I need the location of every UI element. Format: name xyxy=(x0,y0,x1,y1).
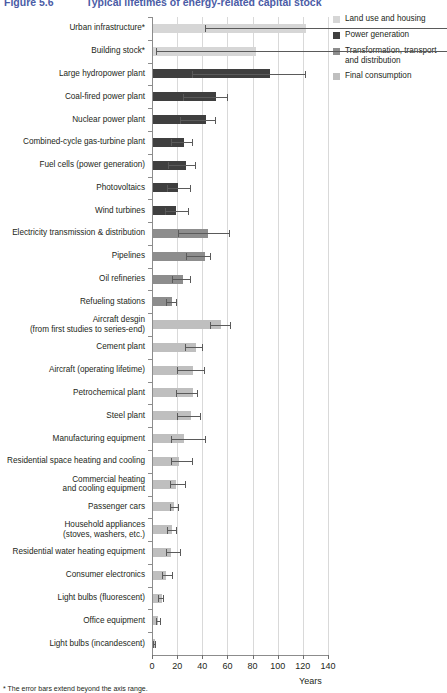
error-bar-cap-high xyxy=(305,71,306,78)
error-bar-cap-high xyxy=(188,208,189,215)
category-label: Light bulbs (fluorescent) xyxy=(0,593,145,603)
error-bar-cap-high xyxy=(210,253,211,260)
y-axis-tick xyxy=(148,17,152,18)
error-bar xyxy=(171,461,192,462)
error-bar-cap-low xyxy=(156,618,157,625)
legend-item-transformation: Transformation, transport and distributi… xyxy=(333,46,447,66)
y-axis-tick xyxy=(148,564,152,565)
category-label: Commercial heating and cooling equipment xyxy=(0,475,145,494)
error-bar-cap-low xyxy=(168,162,169,169)
x-axis-title: Years xyxy=(299,676,322,686)
error-bar-cap-low xyxy=(185,344,186,351)
x-axis-tick xyxy=(177,655,178,659)
error-bar-cap-low xyxy=(170,504,171,511)
error-bar xyxy=(170,484,185,485)
error-bar-cap-low xyxy=(178,230,179,237)
error-bar xyxy=(166,302,176,303)
y-axis-tick xyxy=(148,85,152,86)
error-bar-cap-low xyxy=(192,71,193,78)
error-bar-cap-low xyxy=(167,527,168,534)
error-bar-cap-low xyxy=(165,208,166,215)
category-label: Large hydropower plant xyxy=(0,69,145,79)
category-label: Residential water heating equipment xyxy=(0,547,145,557)
error-bar-cap-low xyxy=(156,48,157,55)
category-label: Cement plant xyxy=(0,342,145,352)
error-bar-cap-high xyxy=(178,504,179,511)
error-bar-cap-low xyxy=(170,481,171,488)
error-bar-cap-low xyxy=(166,299,167,306)
chart-plot-area xyxy=(152,17,328,655)
gridline xyxy=(253,17,254,655)
gridline xyxy=(303,17,304,655)
error-bar-cap-low xyxy=(171,139,172,146)
category-label: Steel plant xyxy=(0,411,145,421)
y-axis-tick xyxy=(148,541,152,542)
error-bar-cap-high xyxy=(160,618,161,625)
category-label: Aircraft (operating lifetime) xyxy=(0,365,145,375)
y-axis-tick xyxy=(148,518,152,519)
legend-swatch-land-use xyxy=(333,16,340,23)
x-axis-tick-label: 140 xyxy=(313,661,343,671)
x-axis-tick xyxy=(303,655,304,659)
y-axis-tick xyxy=(148,40,152,41)
category-label: Building stock* xyxy=(0,46,145,56)
y-axis-tick xyxy=(148,313,152,314)
error-bar-cap-low xyxy=(186,253,187,260)
error-bar-cap-low xyxy=(180,117,181,124)
category-label: Household appliances (stoves, washers, e… xyxy=(0,520,145,539)
error-bar-cap-high xyxy=(192,139,193,146)
category-label: Nuclear power plant xyxy=(0,115,145,125)
y-axis-tick xyxy=(148,473,152,474)
error-bar-cap-high xyxy=(215,117,216,124)
error-bar xyxy=(162,575,172,576)
gridline xyxy=(227,17,228,655)
error-bar xyxy=(171,439,205,440)
y-axis-tick xyxy=(148,222,152,223)
category-label: Residential space heating and cooling xyxy=(0,456,145,466)
y-axis-tick xyxy=(148,382,152,383)
y-axis-tick xyxy=(148,496,152,497)
y-axis-tick xyxy=(148,632,152,633)
category-label: Consumer electronics xyxy=(0,570,145,580)
error-bar-cap-high xyxy=(205,436,206,443)
category-label: Light bulbs (incandescent) xyxy=(0,639,145,649)
legend-label-land-use: Land use and housing xyxy=(345,14,447,24)
legend-item-final-consumption: Final consumption xyxy=(333,71,447,82)
category-label: Combined-cycle gas-turbine plant xyxy=(0,137,145,147)
error-bar-cap-high xyxy=(180,549,181,556)
x-axis-tick xyxy=(328,655,329,659)
y-axis-tick xyxy=(148,359,152,360)
error-bar xyxy=(183,97,227,98)
error-bar-cap-high xyxy=(229,230,230,237)
error-bar-cap-high xyxy=(172,572,173,579)
legend-label-power-generation: Power generation xyxy=(345,30,447,40)
x-axis-tick xyxy=(227,655,228,659)
error-bar-cap-high xyxy=(227,94,228,101)
error-bar xyxy=(185,347,203,348)
error-bar-cap-low xyxy=(171,436,172,443)
category-label: Electricity transmission & distribution xyxy=(0,228,145,238)
figure-number: Figure 5.6 xyxy=(4,0,54,8)
error-bar-cap-low xyxy=(205,25,206,32)
x-axis-line xyxy=(152,655,328,656)
error-bar-cap-low xyxy=(166,549,167,556)
chart-footnote: * The error bars extend beyond the axis … xyxy=(3,685,148,692)
y-axis-tick xyxy=(148,177,152,178)
x-axis-tick xyxy=(152,655,153,659)
error-bar-cap-low xyxy=(177,367,178,374)
error-bar-cap-high xyxy=(195,162,196,169)
category-label: Refueling stations xyxy=(0,297,145,307)
error-bar-cap-low xyxy=(158,595,159,602)
category-label: Wind turbines xyxy=(0,206,145,216)
error-bar-cap-high xyxy=(190,276,191,283)
y-axis-tick xyxy=(148,427,152,428)
error-bar-cap-low xyxy=(177,413,178,420)
error-bar-cap-low xyxy=(162,572,163,579)
legend-swatch-final-consumption xyxy=(333,73,340,80)
y-axis-tick xyxy=(148,450,152,451)
y-axis-tick xyxy=(148,290,152,291)
legend-item-power-generation: Power generation xyxy=(333,30,447,41)
category-label: Oil refineries xyxy=(0,274,145,284)
category-label: Coal-fired power plant xyxy=(0,92,145,102)
legend-label-final-consumption: Final consumption xyxy=(345,71,447,81)
